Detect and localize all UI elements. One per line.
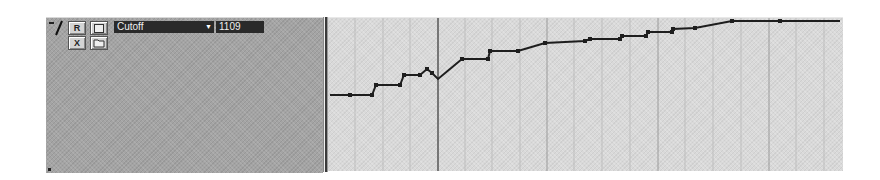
automation-node[interactable] [402,73,406,77]
resize-handle[interactable] [48,168,51,171]
automation-node[interactable] [486,57,490,61]
automation-node[interactable] [583,39,587,43]
automation-node[interactable] [418,73,422,77]
automation-curve[interactable] [328,18,843,171]
read-button[interactable]: R [68,21,86,35]
automation-node[interactable] [430,71,434,75]
parameter-value[interactable]: 1109 [216,21,264,33]
automation-node[interactable] [425,67,429,71]
automation-node[interactable] [644,34,648,38]
automation-node[interactable] [693,26,697,30]
automation-node[interactable] [620,34,624,38]
automation-node[interactable] [374,83,378,87]
automation-node[interactable] [543,41,547,45]
automation-node[interactable] [348,93,352,97]
pencil-icon[interactable] [54,20,64,36]
automation-graph[interactable] [328,17,843,171]
automation-node[interactable] [588,37,592,41]
automation-node[interactable] [398,83,402,87]
chevron-down-icon: ▼ [205,21,212,33]
automation-node[interactable] [370,93,374,97]
automation-node[interactable] [488,49,492,53]
automation-node[interactable] [730,19,734,23]
automation-line[interactable] [330,21,840,95]
automation-lane: R X Cutoff ▼ 1109 [46,17,843,172]
automation-node[interactable] [460,57,464,61]
write-button[interactable] [90,21,108,35]
automation-node[interactable] [671,27,675,31]
parameter-label: Cutoff [117,21,144,32]
folder-icon [93,38,105,48]
track-header-panel: R X Cutoff ▼ 1109 [46,17,323,173]
delete-button[interactable]: X [68,36,86,50]
folder-button[interactable] [90,36,108,50]
automation-node[interactable] [516,49,520,53]
automation-node[interactable] [778,19,782,23]
automation-node[interactable] [646,30,650,34]
parameter-dropdown[interactable]: Cutoff ▼ [114,21,214,33]
